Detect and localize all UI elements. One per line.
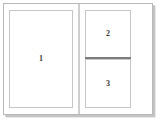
layout-root: 1 2 3: [0, 0, 161, 123]
pane-3-label: 3: [106, 80, 110, 88]
pane-2[interactable]: 2: [85, 10, 131, 57]
split-container: 1 2 3: [4, 4, 152, 114]
left-region: 1: [4, 4, 78, 114]
pane-3[interactable]: 3: [85, 59, 131, 108]
right-pane-stack: 2 3: [85, 10, 131, 108]
right-region: 2 3: [80, 4, 152, 114]
pane-1[interactable]: 1: [9, 10, 73, 108]
pane-1-label: 1: [39, 55, 43, 63]
pane-2-label: 2: [106, 30, 110, 38]
window-frame: 1 2 3: [3, 3, 153, 115]
